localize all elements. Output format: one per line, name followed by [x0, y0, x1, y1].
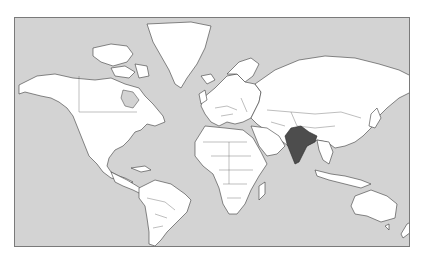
map-svg [15, 18, 410, 247]
arctic-islands [93, 44, 149, 78]
new-zealand [401, 222, 410, 238]
world-map: India [14, 17, 410, 247]
greenland [147, 22, 211, 88]
australia [351, 190, 397, 222]
indonesia [315, 170, 371, 188]
tasmania [385, 224, 389, 230]
south-america [139, 180, 191, 246]
iceland [201, 74, 215, 84]
madagascar [259, 182, 265, 200]
central-america [111, 172, 143, 194]
